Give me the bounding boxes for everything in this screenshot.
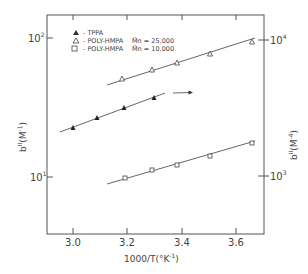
legend-label-hmpa-10000: - POLY-HMPA	[83, 45, 124, 53]
series-tppa	[60, 93, 165, 132]
y-left-tick-label: 102	[28, 31, 45, 44]
series-hmpa-10000	[107, 141, 255, 184]
open-triangle-icon	[73, 38, 79, 43]
top-ticks	[73, 15, 236, 20]
y-left-ticks	[47, 38, 53, 177]
y-right-axis-title: bII(M-4)	[287, 130, 299, 160]
y-right-tick-label: 103	[270, 169, 287, 182]
legend-label-tppa: - TPPA	[83, 29, 104, 37]
data-point	[120, 76, 125, 81]
y-left-axis-title: bII(M-1)	[16, 122, 28, 152]
data-point	[150, 67, 155, 72]
arrow-annotation	[173, 91, 193, 95]
data-point	[150, 168, 154, 172]
x-axis-ticks	[73, 228, 236, 234]
series-hmpa-25000	[107, 38, 255, 85]
data-point	[175, 163, 179, 167]
x-tick-label: 3.0	[65, 237, 81, 248]
x-tick-label: 3.2	[119, 237, 135, 248]
legend-label-hmpa-10000-mn: M̄n = 10,000	[132, 45, 174, 53]
legend-label-hmpa-25000-mn: M̄n = 25,000	[132, 37, 174, 45]
filled-triangle-icon	[73, 30, 79, 35]
x-tick-label: 3.6	[228, 237, 244, 248]
data-point	[123, 176, 127, 180]
chart: 3.0 3.2 3.4 3.6 1000/T(°K-1) 102 101 104…	[0, 0, 308, 274]
data-point	[250, 141, 254, 145]
y-left-tick-label: 101	[30, 170, 47, 183]
y-right-tick-label: 104	[270, 33, 287, 46]
data-point	[208, 154, 212, 158]
x-axis-title: 1000/T(°K-1)	[124, 252, 179, 264]
legend-label-hmpa-25000: - POLY-HMPA	[83, 37, 124, 45]
legend: - TPPA - POLY-HMPA M̄n = 25,000 - POLY-H…	[72, 29, 174, 53]
arrow-head-icon	[189, 91, 194, 95]
x-tick-label: 3.4	[174, 237, 190, 248]
open-square-icon	[72, 46, 77, 51]
